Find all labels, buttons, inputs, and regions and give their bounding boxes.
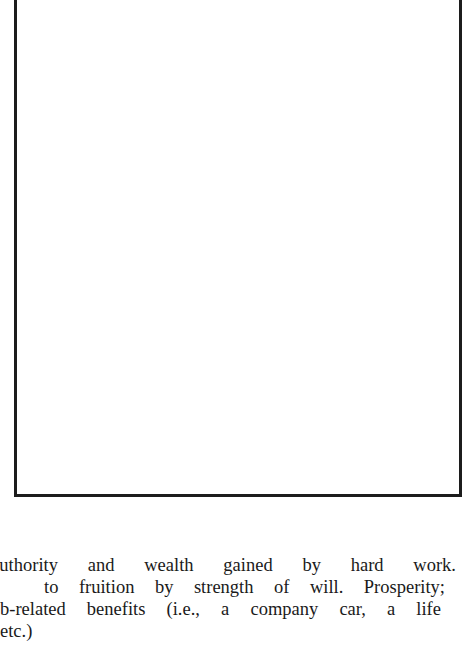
image-frame (14, 0, 462, 497)
caption-line-4: etc.) (0, 620, 456, 642)
caption-line-3: b-related benefits (i.e., a company car,… (0, 598, 441, 620)
caption-line-2: to fruition by strength of will. Prosper… (0, 576, 445, 598)
caption-text: Authority and wealth gained by hard work… (0, 554, 456, 642)
caption-line-1: Authority and wealth gained by hard work… (0, 554, 456, 576)
